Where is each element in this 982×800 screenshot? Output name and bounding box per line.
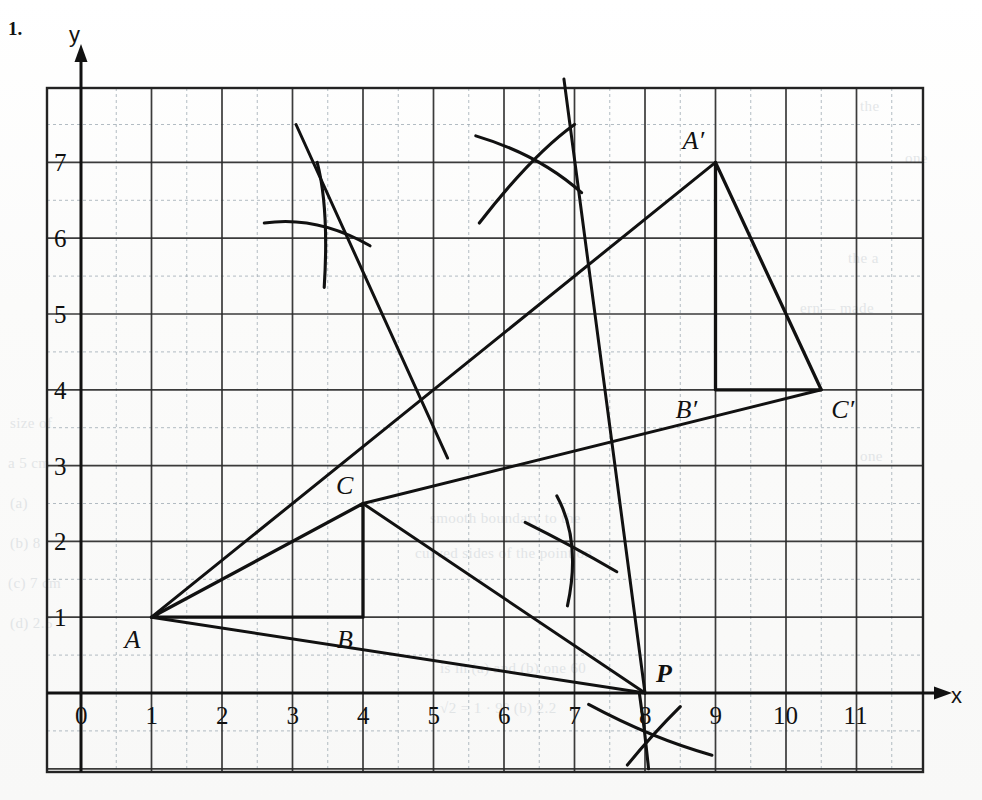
- arc-mid-right-a: [557, 496, 573, 606]
- x-tick-label-6: 6: [498, 702, 511, 729]
- figure-strokes: [152, 79, 822, 693]
- y-tick-label-7: 7: [54, 149, 67, 176]
- arc-upper-right-b: [479, 125, 574, 224]
- x-tick-label-0: 0: [75, 702, 88, 729]
- y-tick-label-1: 1: [54, 604, 67, 631]
- axes-lines: [47, 44, 952, 772]
- x-tick-label-3: 3: [287, 702, 300, 729]
- point-label-A: A: [123, 625, 141, 654]
- y-tick-label-2: 2: [54, 528, 67, 555]
- x-tick-label-9: 9: [710, 702, 723, 729]
- arc-below-p-b: [627, 707, 680, 765]
- ray-C-to-C-prime: [363, 390, 821, 504]
- construction-line-through-P: [564, 79, 645, 693]
- y-tick-label-3: 3: [54, 453, 67, 480]
- axis-tick-labels: 012345678910111234567: [54, 149, 868, 729]
- x-tick-label-5: 5: [428, 702, 441, 729]
- x-tick-label-7: 7: [569, 702, 582, 729]
- arc-upper-left-b: [264, 222, 370, 246]
- y-tick-label-5: 5: [54, 301, 67, 328]
- point-label-P: P: [655, 659, 673, 688]
- x-tick-label-11: 11: [844, 702, 868, 729]
- x-tick-label-10: 10: [773, 702, 798, 729]
- point-label-A_prime: A′: [681, 126, 705, 155]
- point-label-C_prime: C′: [831, 395, 854, 424]
- y-axis-arrowhead: [75, 44, 88, 62]
- coordinate-plot: 012345678910111234567 ABCA′B′C′P: [0, 0, 982, 800]
- y-tick-label-6: 6: [54, 225, 67, 252]
- point-label-B_prime: B′: [676, 395, 698, 424]
- x-tick-label-4: 4: [357, 702, 370, 729]
- x-axis-arrowhead: [934, 687, 952, 700]
- point-label-B: B: [337, 625, 353, 654]
- x-tick-label-1: 1: [146, 702, 159, 729]
- x-tick-label-2: 2: [216, 702, 229, 729]
- y-tick-label-4: 4: [54, 377, 67, 404]
- diagram-page: theonethe aern— madesize ofa 5 cm(a)(b) …: [0, 0, 982, 800]
- point-label-C: C: [336, 471, 354, 500]
